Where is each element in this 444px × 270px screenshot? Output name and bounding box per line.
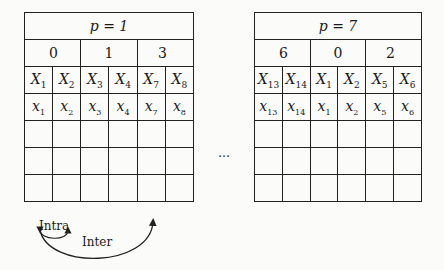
inter-label: Inter	[82, 235, 112, 249]
intra-label: Intra	[39, 219, 69, 233]
